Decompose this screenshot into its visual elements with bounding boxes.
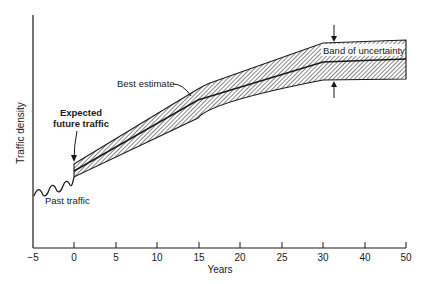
past-traffic-label: Past traffic [45,195,90,206]
y-axis-label: Traffic density [15,102,26,164]
x-axis-label: Years [207,264,232,275]
tick-label: 50 [400,252,412,263]
best-estimate-label: Best estimate [117,78,175,89]
best-estimate-leader [173,84,191,96]
x-tick-labels: −5 0 5 10 15 20 25 30 40 50 [27,252,412,263]
x-ticks [74,242,406,248]
tick-label: 10 [151,252,163,263]
tick-label: −5 [27,252,39,263]
tick-label: 0 [71,252,77,263]
tick-label: 5 [113,252,119,263]
band-of-uncertainty-label: Band of uncertainty [323,45,405,56]
traffic-forecast-diagram: −5 0 5 10 15 20 25 30 40 50 Years Traffi… [0,0,425,284]
tick-label: 15 [193,252,205,263]
tick-label: 30 [317,252,329,263]
past-traffic-line [34,177,74,196]
tick-label: 25 [276,252,288,263]
tick-label: 20 [234,252,246,263]
expected-arrowhead [71,155,77,162]
tick-label: 40 [359,252,371,263]
expected-label-line1: Expected [60,107,102,118]
expected-label-line2: future traffic [53,118,109,129]
